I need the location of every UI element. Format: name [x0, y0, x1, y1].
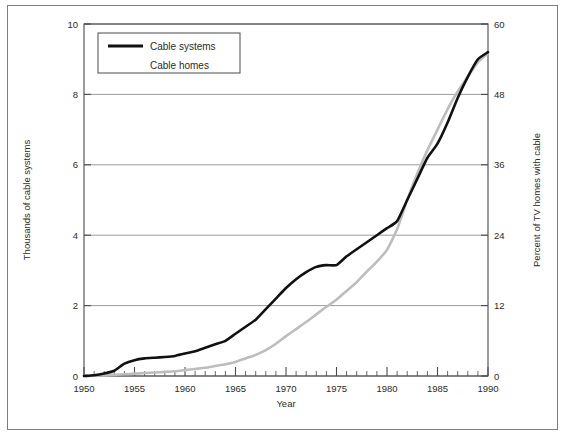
y-axis-left-tick-labels: 0246810	[67, 19, 78, 382]
legend-label-cable-systems: Cable systems	[150, 41, 216, 52]
y-left-tick-label: 4	[73, 230, 78, 241]
y-axis-right-ticks	[481, 24, 488, 376]
y-right-tick-label: 24	[494, 230, 505, 241]
y-left-tick-label: 10	[67, 19, 78, 30]
y-axis-left-ticks	[84, 24, 91, 376]
x-axis-tick-labels: 195019551960196519701975198019851990	[73, 383, 498, 394]
y-left-tick-label: 6	[73, 159, 78, 170]
y-axis-left-title: Thousands of cable systems	[21, 140, 32, 261]
x-tick-label: 1990	[477, 383, 498, 394]
figure-container: 195019551960196519701975198019851990 024…	[0, 0, 566, 437]
y-right-tick-label: 36	[494, 159, 505, 170]
x-axis-title: Year	[276, 398, 295, 409]
plot-area-frame	[84, 24, 488, 376]
y-right-tick-label: 0	[494, 371, 499, 382]
x-tick-label: 1985	[427, 383, 448, 394]
y-right-tick-label: 48	[494, 89, 505, 100]
data-series-group	[84, 52, 488, 376]
y-axis-right-tick-labels: 01224364860	[494, 19, 505, 382]
x-axis-ticks	[84, 367, 488, 376]
x-tick-label: 1950	[73, 383, 94, 394]
y-right-tick-label: 12	[494, 300, 505, 311]
y-left-tick-label: 8	[73, 89, 78, 100]
legend-label-cable-homes: Cable homes	[150, 60, 209, 71]
chart-legend: Cable systemsCable homes	[98, 33, 240, 73]
gridlines-group	[84, 24, 488, 376]
cable-growth-line-chart: 195019551960196519701975198019851990 024…	[0, 0, 566, 437]
x-tick-label: 1960	[174, 383, 195, 394]
x-tick-label: 1975	[326, 383, 347, 394]
series-line-cable-homes	[84, 53, 488, 376]
y-right-tick-label: 60	[494, 19, 505, 30]
y-left-tick-label: 2	[73, 300, 78, 311]
y-axis-right-title: Percent of TV homes with cable	[531, 133, 542, 267]
y-left-tick-label: 0	[73, 371, 78, 382]
x-tick-label: 1980	[376, 383, 397, 394]
series-line-cable-systems	[84, 52, 488, 376]
x-tick-label: 1970	[275, 383, 296, 394]
plot-frame	[84, 24, 488, 376]
x-tick-label: 1965	[225, 383, 246, 394]
x-tick-label: 1955	[124, 383, 145, 394]
